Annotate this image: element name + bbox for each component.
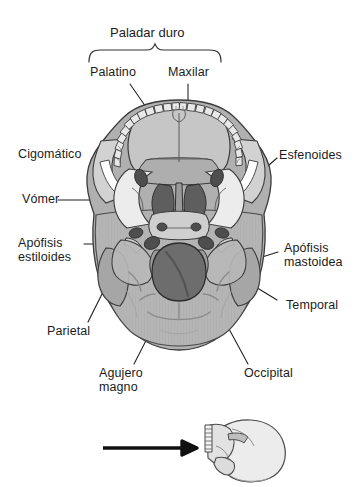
- tooth: [154, 104, 163, 113]
- label-palatino: Palatino: [90, 66, 136, 80]
- tooth: [195, 104, 204, 113]
- tooth: [187, 103, 196, 111]
- label-apofisis-mastoidea-line1: Apófisis: [284, 242, 329, 256]
- label-apofisis-mastoidea-line2: mastoidea: [284, 256, 343, 270]
- label-parietal: Parietal: [47, 325, 90, 339]
- label-apofisis-estiloides-line2: estiloides: [18, 251, 71, 265]
- label-agujero-magno-line1: Agujero: [99, 367, 143, 381]
- label-agujero-magno-line2: magno: [99, 381, 138, 395]
- bracket-title-paladar-duro: Paladar duro: [110, 26, 184, 40]
- label-temporal: Temporal: [286, 299, 338, 313]
- tooth: [163, 103, 172, 111]
- label-vomer: Vómer: [22, 193, 59, 207]
- label-maxilar: Maxilar: [168, 66, 209, 80]
- label-apofisis-estiloides-line1: Apófisis: [18, 237, 63, 251]
- label-esfenoides: Esfenoides: [279, 149, 342, 163]
- label-occipital: Occipital: [244, 367, 293, 381]
- label-cigomatico: Cigomático: [18, 148, 82, 162]
